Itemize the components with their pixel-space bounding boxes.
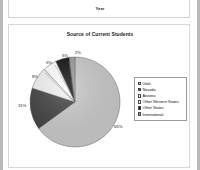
upper-chart-axis-title: Year	[9, 6, 191, 11]
legend-swatch-arizona	[138, 94, 142, 98]
upper-chart-panel: Year	[8, 0, 190, 18]
legend-item-other-western-states[interactable]: Other Western States	[138, 99, 185, 105]
pie-leader-lines	[19, 49, 131, 155]
legend-label-utah: Utah	[142, 81, 150, 86]
legend-label-other-western-states: Other Western States	[142, 99, 178, 104]
legend-swatch-international	[138, 112, 142, 116]
slice-label-utah: 65%	[114, 124, 122, 129]
legend-item-international[interactable]: International	[138, 111, 185, 117]
chart-legend: Utah Nevada Arizona Other Western States…	[134, 77, 187, 121]
slice-label-other-states: 5%	[62, 53, 68, 58]
chart-title: Source of Current Students	[9, 31, 191, 37]
legend-swatch-nevada	[138, 88, 142, 92]
pie-chart-panel: Source of Current Students 2% 5%	[8, 24, 190, 168]
legend-swatch-other-western-states	[138, 100, 142, 104]
legend-label-arizona: Arizona	[142, 93, 155, 98]
pie-chart-graphic: 2% 5% 5% 8% 15% 65%	[19, 49, 131, 155]
slice-label-other-western-states: 5%	[46, 60, 52, 65]
legend-swatch-other-states	[138, 106, 142, 110]
legend-label-nevada: Nevada	[142, 87, 155, 92]
slice-label-international: 2%	[75, 50, 81, 55]
document-page: Year Source of Current Students	[3, 0, 197, 170]
slice-label-arizona: 8%	[32, 74, 38, 79]
legend-label-international: International	[142, 112, 163, 117]
legend-label-other-states: Other States	[142, 105, 163, 110]
legend-swatch-utah	[138, 82, 142, 86]
slice-label-nevada: 15%	[18, 103, 26, 108]
